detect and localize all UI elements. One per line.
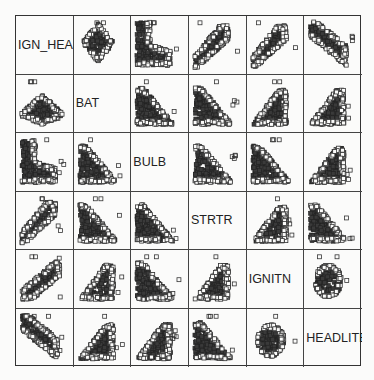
scatter-points [131, 192, 188, 250]
scatter-points [189, 250, 246, 308]
diagonal-label-cell: IGN_HEAD [16, 16, 74, 75]
scatter-points [74, 192, 131, 250]
scatter-points [189, 309, 246, 368]
scatter-points [74, 133, 131, 191]
scatter-panel [304, 192, 362, 251]
diagonal-label-cell: BAT [74, 75, 132, 134]
variable-label: IGN_HEAD [18, 38, 74, 52]
scatter-panel [304, 250, 362, 309]
scatter-panel [189, 133, 247, 192]
scatter-points [304, 133, 362, 191]
scatter-panel [16, 192, 74, 251]
diagonal-label-cell: BULB [131, 133, 189, 192]
scatter-points [16, 75, 73, 133]
scatter-points [247, 192, 304, 250]
scatter-points [304, 16, 362, 74]
scatter-panel [189, 309, 247, 368]
variable-label: IGNITN [249, 272, 291, 286]
scatter-panel [16, 75, 74, 134]
scatter-panel [131, 309, 189, 368]
scatter-panel [131, 192, 189, 251]
scatter-points [189, 75, 246, 133]
variable-label: BAT [76, 96, 99, 110]
scatter-points [189, 133, 246, 191]
scatter-panel [247, 133, 305, 192]
scatter-panel [304, 16, 362, 75]
scatter-panel [304, 75, 362, 134]
scatter-panel [189, 250, 247, 309]
scatter-points [247, 133, 304, 191]
scatter-points [304, 192, 362, 250]
scatter-points [247, 309, 304, 368]
diagonal-label-cell: STRTR [189, 192, 247, 251]
scatter-points [247, 16, 304, 74]
scatter-points [189, 16, 246, 74]
scatter-panel [131, 250, 189, 309]
variable-label: HEADLITE [306, 331, 362, 345]
scatter-points [131, 250, 188, 308]
scatter-panel [16, 309, 74, 368]
scatter-panel [247, 16, 305, 75]
scatter-panel [74, 192, 132, 251]
scatter-panel [131, 75, 189, 134]
scatter-panel [131, 16, 189, 75]
scatter-points [247, 75, 304, 133]
scatter-panel [16, 133, 74, 192]
scatter-panel [74, 16, 132, 75]
scatter-panel [74, 309, 132, 368]
diagonal-label-cell: HEADLITE [304, 309, 362, 368]
scatter-points [304, 250, 362, 308]
scatter-points [131, 75, 188, 133]
scatter-points [131, 16, 188, 74]
scatter-panel [247, 75, 305, 134]
scatter-panel [247, 309, 305, 368]
scatter-points [16, 133, 73, 191]
scatter-points [16, 192, 73, 250]
variable-label: BULB [133, 155, 166, 169]
scatter-points [131, 309, 188, 368]
scatter-points [74, 16, 131, 74]
diagonal-label-cell: IGNITN [247, 250, 305, 309]
scatter-panel [16, 250, 74, 309]
scatter-panel [189, 75, 247, 134]
scatter-points [74, 309, 131, 368]
scatter-points [74, 250, 131, 308]
scatter-points [16, 309, 73, 368]
scatter-points [16, 250, 73, 308]
scatter-panel [74, 133, 132, 192]
scatter-panel [304, 133, 362, 192]
variable-label: STRTR [191, 213, 232, 227]
scatter-points [304, 75, 362, 133]
scatter-panel [247, 192, 305, 251]
scatter-panel [189, 16, 247, 75]
scatterplot-matrix: IGN_HEADBATBULBSTRTRIGNITNHEADLITE [15, 15, 361, 366]
scatter-panel [74, 250, 132, 309]
